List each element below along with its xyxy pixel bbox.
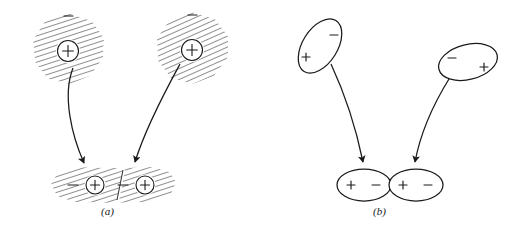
panel-b-arrow-right [415, 79, 449, 162]
panel-b-dipole-right [435, 38, 502, 86]
panel-b-arrow-left [331, 64, 363, 162]
figure-canvas: (a) (b) Two-panel schematic of induced d… [0, 0, 506, 239]
panel-a-arrow-right [135, 64, 180, 162]
diagram-svg [0, 0, 506, 239]
panel-b-polarized-dipole-pair [337, 169, 443, 201]
panel-b-caption: (b) [373, 205, 386, 217]
panel-a-polarized-pair [51, 167, 176, 203]
panel-a-atom-left [33, 13, 104, 84]
panel-a-atom-right [157, 12, 228, 84]
panel-b-dipole-left [286, 9, 355, 83]
panel-a-caption: (a) [101, 205, 114, 217]
